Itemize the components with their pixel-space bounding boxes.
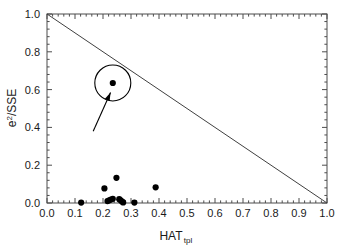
data-point bbox=[153, 184, 159, 190]
x-axis-title-subscript: tpl bbox=[184, 236, 193, 245]
data-point bbox=[110, 196, 116, 202]
x-tick-label: 0.4 bbox=[151, 207, 166, 219]
y-axis-title-text: e2/SSE bbox=[5, 89, 19, 128]
x-tick-label: 0.5 bbox=[179, 207, 194, 219]
reference-line-group bbox=[47, 14, 327, 203]
y-tick-label: 0.8 bbox=[25, 46, 40, 58]
x-tick-label: 0.0 bbox=[39, 207, 54, 219]
x-tick-label: 0.6 bbox=[207, 207, 222, 219]
x-tick-label: 0.1 bbox=[67, 207, 82, 219]
x-axis-title-text: HAT bbox=[159, 229, 183, 243]
y-axis-title: e2/SSE bbox=[5, 89, 19, 128]
x-tick-labels: 0.00.10.20.30.40.50.60.70.80.91.0 bbox=[39, 207, 334, 219]
data-point bbox=[120, 199, 126, 205]
y-tick-label: 1.0 bbox=[25, 8, 40, 20]
x-tick-label: 0.3 bbox=[123, 207, 138, 219]
x-tick-label: 0.8 bbox=[263, 207, 278, 219]
diagonal-boundary-line bbox=[47, 14, 327, 203]
y-tick-label: 0.2 bbox=[25, 159, 40, 171]
data-point bbox=[131, 200, 137, 206]
y-tick-label: 0.6 bbox=[25, 84, 40, 96]
data-point bbox=[78, 200, 84, 206]
y-tick-labels: 0.00.20.40.60.81.0 bbox=[25, 8, 40, 209]
data-point bbox=[101, 185, 107, 191]
x-axis-title: HAT tpl bbox=[159, 229, 192, 245]
x-tick-label: 1.0 bbox=[319, 207, 334, 219]
x-tick-label: 0.9 bbox=[291, 207, 306, 219]
data-point-group bbox=[78, 80, 159, 206]
data-point bbox=[110, 80, 116, 86]
x-tick-label: 0.2 bbox=[95, 207, 110, 219]
callout-arrow bbox=[93, 92, 110, 131]
y-tick-label: 0.0 bbox=[25, 197, 40, 209]
figure-container: 0.00.10.20.30.40.50.60.70.80.91.0 0.00.2… bbox=[0, 0, 339, 249]
data-point bbox=[113, 175, 119, 181]
x-tick-label: 0.7 bbox=[235, 207, 250, 219]
y-tick-label: 0.4 bbox=[25, 121, 40, 133]
scatter-plot: 0.00.10.20.30.40.50.60.70.80.91.0 0.00.2… bbox=[0, 0, 339, 249]
